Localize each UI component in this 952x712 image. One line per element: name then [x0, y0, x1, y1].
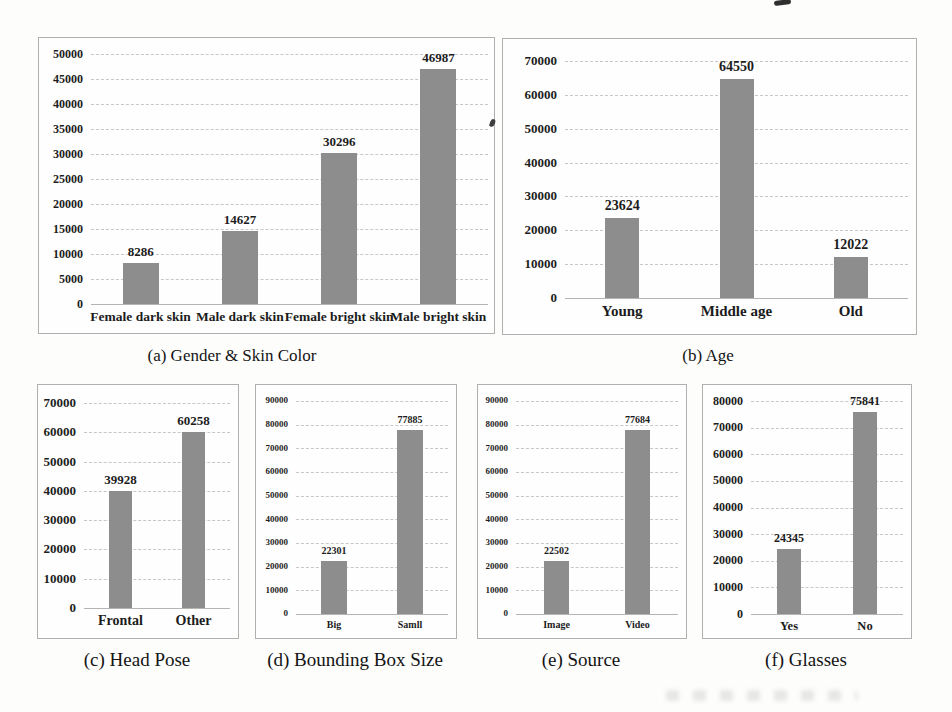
category-label-samll: Samll — [366, 619, 454, 630]
category-label-no: No — [821, 619, 909, 634]
scan-artifact-top-fragment — [774, 0, 791, 6]
y-tick-label: 0 — [480, 608, 508, 618]
gridline — [296, 496, 448, 497]
chart-age: 0100002000030000400005000060000700002362… — [502, 38, 917, 335]
gridline — [296, 519, 448, 520]
y-tick-label: 30000 — [258, 537, 288, 547]
y-tick-label: 50000 — [258, 490, 288, 500]
value-label-frontal: 39928 — [76, 472, 166, 488]
y-tick-label: 70000 — [705, 420, 743, 435]
chart-source: 0100002000030000400005000060000700008000… — [477, 384, 687, 639]
y-tick-label: 80000 — [480, 419, 508, 429]
gridline — [751, 454, 903, 455]
gridline — [84, 403, 230, 404]
y-tick-label: 60000 — [40, 424, 76, 440]
gridline — [296, 590, 448, 591]
bar-female-dark-skin — [123, 263, 159, 304]
y-tick-label: 60000 — [258, 466, 288, 476]
chart-head-pose: 0100002000030000400005000060000700003992… — [37, 384, 239, 639]
y-tick-label: 80000 — [705, 394, 743, 409]
bar-young — [605, 218, 639, 298]
y-tick-label: 0 — [705, 607, 743, 622]
bar-samll — [397, 430, 423, 614]
category-label-other: Other — [151, 613, 236, 629]
y-tick-label: 40000 — [705, 500, 743, 515]
y-tick-label: 40000 — [41, 97, 83, 112]
y-tick-label: 10000 — [705, 580, 743, 595]
y-tick-label: 50000 — [40, 454, 76, 470]
value-label-old: 12022 — [806, 237, 896, 253]
y-tick-label: 40000 — [505, 155, 557, 171]
gridline — [751, 561, 903, 562]
caption-glasses: (f) Glasses — [706, 649, 906, 671]
category-label-video: Video — [591, 619, 684, 630]
caption-bounding-box-size: (d) Bounding Box Size — [230, 649, 480, 671]
bar-male-dark-skin — [222, 231, 258, 304]
category-label-young: Young — [559, 303, 685, 320]
gridline — [751, 587, 903, 588]
y-tick-label: 50000 — [480, 490, 508, 500]
y-tick-label: 0 — [41, 297, 83, 312]
value-label-big: 22301 — [289, 545, 379, 556]
gridline — [516, 567, 678, 568]
y-tick-label: 50000 — [505, 121, 557, 137]
y-tick-label: 10000 — [258, 585, 288, 595]
x-axis-line — [516, 614, 678, 615]
bar-other — [182, 432, 205, 608]
bar-middle-age — [720, 79, 754, 298]
y-tick-label: 60000 — [505, 87, 557, 103]
y-tick-label: 50000 — [705, 473, 743, 488]
scan-artifact-bleedthrough — [666, 690, 858, 701]
x-axis-line — [84, 608, 230, 609]
gridline — [751, 481, 903, 482]
y-tick-label: 25000 — [41, 172, 83, 187]
y-tick-label: 20000 — [40, 541, 76, 557]
category-label-old: Old — [788, 303, 914, 320]
bar-image — [544, 561, 569, 614]
gridline — [751, 508, 903, 509]
category-label-male-dark-skin: Male dark skin — [184, 309, 295, 325]
category-label-image: Image — [510, 619, 603, 630]
y-tick-label: 0 — [505, 290, 557, 306]
y-tick-label: 70000 — [40, 395, 76, 411]
category-label-middle-age: Middle age — [673, 303, 799, 320]
value-label-image: 22502 — [512, 545, 602, 556]
y-tick-label: 10000 — [505, 256, 557, 272]
gridline — [84, 462, 230, 463]
y-tick-label: 20000 — [505, 222, 557, 238]
y-tick-label: 20000 — [480, 561, 508, 571]
y-tick-label: 0 — [40, 600, 76, 616]
y-tick-label: 15000 — [41, 222, 83, 237]
y-tick-label: 10000 — [480, 585, 508, 595]
gridline — [296, 401, 448, 402]
y-tick-label: 10000 — [40, 571, 76, 587]
chart-glasses: 0100002000030000400005000060000700008000… — [702, 384, 912, 639]
y-tick-label: 0 — [258, 608, 288, 618]
y-tick-label: 70000 — [258, 443, 288, 453]
bar-male-bright-skin — [420, 69, 456, 304]
value-label-other: 60258 — [149, 413, 239, 429]
y-tick-label: 40000 — [40, 483, 76, 499]
gridline — [516, 590, 678, 591]
caption-gender-skin-color: (a) Gender & Skin Color — [82, 346, 382, 366]
value-label-male-dark-skin: 14627 — [195, 212, 285, 228]
category-label-male-bright-skin: Male bright skin — [383, 309, 494, 325]
y-tick-label: 30000 — [705, 527, 743, 542]
bar-no — [853, 412, 877, 614]
bar-female-bright-skin — [321, 153, 357, 304]
y-tick-label: 80000 — [258, 419, 288, 429]
gridline — [84, 520, 230, 521]
gridline — [751, 428, 903, 429]
gridline — [296, 543, 448, 544]
y-tick-label: 10000 — [41, 247, 83, 262]
caption-head-pose: (c) Head Pose — [37, 649, 237, 671]
gridline — [84, 491, 230, 492]
y-tick-label: 35000 — [41, 122, 83, 137]
chart-bounding-box-size: 0100002000030000400005000060000700008000… — [255, 384, 457, 639]
gridline — [296, 472, 448, 473]
bar-yes — [777, 549, 801, 614]
value-label-middle-age: 64550 — [692, 59, 782, 75]
category-label-yes: Yes — [745, 619, 833, 634]
y-tick-label: 20000 — [258, 561, 288, 571]
value-label-samll: 77885 — [365, 414, 455, 425]
